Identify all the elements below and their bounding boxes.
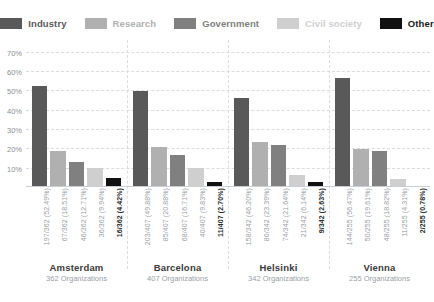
bar-group-vienna [329, 46, 430, 187]
value-label-slot: 36/362 (9.94%) [87, 188, 102, 256]
legend-item-civil-society[interactable]: Civil society [277, 18, 362, 29]
value-label: 9/342 (2.63%) [318, 188, 325, 233]
value-label-slot: 46/362 (12.71%) [69, 188, 84, 256]
legend-item-government[interactable]: Government [174, 18, 259, 29]
value-label-slot: 203/407 (49.88%) [133, 188, 148, 256]
value-label: 16/362 (4.42%) [116, 188, 123, 237]
value-label-group-amsterdam: 197/362 (52.49%)67/362 (18.51%)46/362 (1… [26, 188, 127, 256]
bar-slot [289, 46, 304, 187]
value-label: 80/342 (23.39%) [263, 188, 270, 241]
bar-helsinki-government[interactable] [271, 145, 286, 187]
bar-vienna-industry[interactable] [335, 78, 350, 187]
bar-slot [133, 46, 148, 187]
value-label-slot: 67/362 (18.51%) [50, 188, 65, 256]
legend-label: Industry [28, 18, 66, 29]
bar-slot [308, 46, 323, 187]
value-label-slot: 197/362 (52.49%) [32, 188, 47, 256]
grouped-bar-chart: IndustryResearchGovernmentCivil societyO… [0, 0, 434, 302]
bar-amsterdam-industry[interactable] [32, 86, 47, 187]
bar-slot [409, 46, 424, 187]
value-label-group-helsinki: 158/342 (46.20%)80/342 (23.39%)74/342 (2… [228, 188, 329, 256]
city-captions: Amsterdam362 OrganizationsBarcelona407 O… [26, 262, 430, 294]
bar-slot [69, 46, 84, 187]
value-label: 67/362 (18.51%) [61, 188, 68, 241]
legend-label: Government [202, 18, 259, 29]
value-label-slot: 11/407 (2.70%) [207, 188, 222, 256]
bar-barcelona-research[interactable] [151, 147, 166, 187]
y-tick-label: 60% [7, 68, 22, 77]
bar-barcelona-government[interactable] [170, 155, 185, 187]
city-org-count: 362 Organizations [26, 274, 127, 283]
value-label-slot: 16/362 (4.42%) [106, 188, 121, 256]
value-label-slot: 40/407 (9.83%) [188, 188, 203, 256]
value-label-slot: 2/255 (0.78%) [409, 188, 424, 256]
value-label: 203/407 (49.88%) [144, 188, 151, 245]
y-tick-label: 40% [7, 106, 22, 115]
bar-slot [188, 46, 203, 187]
bar-slot [87, 46, 102, 187]
bar-barcelona-civil-society[interactable] [188, 168, 203, 187]
legend-swatch-icon [380, 18, 402, 29]
city-caption-amsterdam: Amsterdam362 Organizations [26, 262, 127, 294]
city-org-count: 407 Organizations [127, 274, 228, 283]
value-label: 197/362 (52.49%) [43, 188, 50, 245]
bar-vienna-government[interactable] [372, 151, 387, 187]
value-label: 85/407 (20.88%) [162, 188, 169, 241]
legend-label: Research [113, 18, 157, 29]
legend-swatch-icon [85, 18, 107, 29]
city-name: Helsinki [228, 262, 329, 273]
value-label: 50/255 (19.61%) [364, 188, 371, 241]
bar-slot [372, 46, 387, 187]
legend-item-industry[interactable]: Industry [0, 18, 66, 29]
value-label: 158/342 (46.20%) [245, 188, 252, 245]
bar-slot [151, 46, 166, 187]
bar-helsinki-research[interactable] [252, 142, 267, 187]
city-caption-barcelona: Barcelona407 Organizations [127, 262, 228, 294]
bar-helsinki-industry[interactable] [234, 98, 249, 187]
value-label-slot: 74/342 (21.64%) [271, 188, 286, 256]
bar-amsterdam-research[interactable] [50, 151, 65, 187]
bar-groups [26, 46, 430, 187]
bar-slot [271, 46, 286, 187]
value-label-group-vienna: 144/255 (56.47%)50/255 (19.61%)48/255 (1… [329, 188, 430, 256]
x-axis-line [26, 186, 430, 187]
bar-barcelona-industry[interactable] [133, 91, 148, 187]
y-tick-label: 10% [7, 164, 22, 173]
bar-slot [50, 46, 65, 187]
city-caption-vienna: Vienna255 Organizations [329, 262, 430, 294]
value-label-slot: 9/342 (2.63%) [308, 188, 323, 256]
legend-label: Other [408, 18, 434, 29]
y-tick-label: 50% [7, 87, 22, 96]
value-label: 2/255 (0.78%) [419, 188, 426, 233]
value-label-slot: 144/255 (56.47%) [335, 188, 350, 256]
city-name: Barcelona [127, 262, 228, 273]
legend-item-other[interactable]: Other [380, 18, 434, 29]
value-label-slot: 158/342 (46.20%) [234, 188, 249, 256]
city-org-count: 255 Organizations [329, 274, 430, 283]
city-org-count: 342 Organizations [228, 274, 329, 283]
bar-amsterdam-government[interactable] [69, 162, 84, 187]
value-label: 11/407 (2.70%) [217, 188, 224, 237]
value-labels: 197/362 (52.49%)67/362 (18.51%)46/362 (1… [26, 188, 430, 256]
city-caption-helsinki: Helsinki342 Organizations [228, 262, 329, 294]
value-label: 68/407 (16.71%) [181, 188, 188, 241]
value-label-slot: 21/342 (6.14%) [289, 188, 304, 256]
value-label: 21/342 (6.14%) [300, 188, 307, 237]
bar-slot [234, 46, 249, 187]
y-tick-label: 30% [7, 126, 22, 135]
bar-vienna-research[interactable] [353, 149, 368, 187]
value-label-slot: 68/407 (16.71%) [170, 188, 185, 256]
value-label: 144/255 (56.47%) [346, 188, 353, 245]
legend-swatch-icon [277, 18, 299, 29]
chart-legend: IndustryResearchGovernmentCivil societyO… [0, 14, 434, 32]
city-name: Vienna [329, 262, 430, 273]
y-tick-label: 20% [7, 145, 22, 154]
value-label-slot: 11/255 (4.31%) [390, 188, 405, 256]
value-label-group-barcelona: 203/407 (49.88%)85/407 (20.88%)68/407 (1… [127, 188, 228, 256]
value-label: 11/255 (4.31%) [401, 188, 408, 237]
bar-amsterdam-civil-society[interactable] [87, 168, 102, 187]
legend-swatch-icon [0, 18, 22, 29]
bar-slot [390, 46, 405, 187]
bar-slot [207, 46, 222, 187]
legend-item-research[interactable]: Research [85, 18, 157, 29]
